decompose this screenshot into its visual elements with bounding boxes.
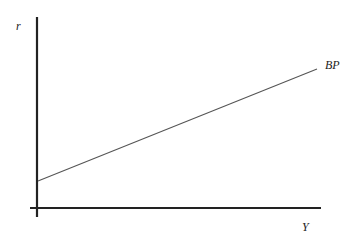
chart: r Y BP bbox=[0, 0, 354, 241]
bp-curve bbox=[38, 69, 317, 181]
x-axis-label: Y bbox=[302, 220, 310, 234]
bp-curve-label: BP bbox=[325, 58, 340, 72]
y-axis-label: r bbox=[16, 19, 21, 33]
